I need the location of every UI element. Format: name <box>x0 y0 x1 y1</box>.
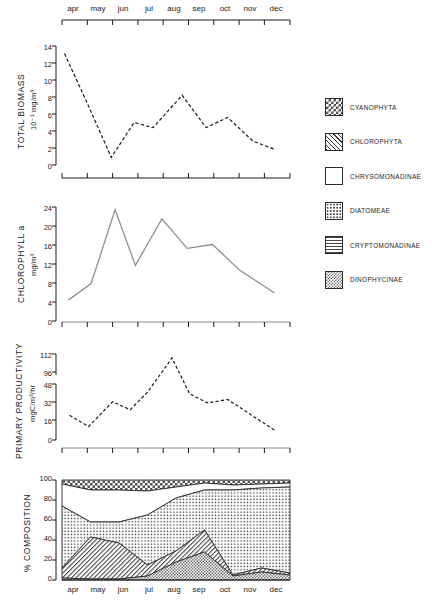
total-biomass-line <box>65 54 276 158</box>
month-label-bottom-oct: oct <box>211 585 239 594</box>
legend-item-chlorophyta: CHLOROPHYTA <box>325 133 432 151</box>
legend-label-cryptomonadinae: CRYPTOMONADINAE <box>350 242 420 249</box>
month-label-apr: apr <box>59 4 87 13</box>
month-label-bottom-sep: sep <box>185 585 213 594</box>
legend-item-dinophycinae: DINOPHYCINAE <box>325 271 432 289</box>
ytick-chl-24: 24 <box>34 204 52 213</box>
ytick-chl-16: 16 <box>34 242 52 251</box>
ytick-chl-12: 12 <box>34 261 52 270</box>
legend-swatch-cyanophyta-icon <box>325 98 343 116</box>
month-label-jul: jul <box>135 4 163 13</box>
ytick-chl-0: 0 <box>34 318 52 327</box>
ytick-pp-112: 112 <box>32 351 52 360</box>
legend-label-cyanophyta: CYANOPHYTA <box>350 104 397 111</box>
month-axis-top: apr may jun jul aug sep oct nov dec <box>0 0 300 26</box>
axis-label-chlorophyll: CHLOROPHYLL a <box>16 208 26 320</box>
ytick-0: 0 <box>34 162 52 171</box>
ytick-pc-0: 0 <box>32 574 52 583</box>
ytick-pc-40: 40 <box>32 534 52 543</box>
legend-item-cyanophyta: CYANOPHYTA <box>325 98 432 116</box>
ytick-pc-80: 80 <box>32 494 52 503</box>
panel-chlorophyll-a: CHLOROPHYLL a mg/m³ 24 20 16 12 8 4 0 <box>0 186 300 331</box>
month-label-aug: aug <box>160 4 188 13</box>
month-label-jun: jun <box>109 4 137 13</box>
ytick-pc-20: 20 <box>32 554 52 563</box>
legend-label-chlorophyta: CHLOROPHYTA <box>350 138 402 145</box>
panel-primary-productivity: PRIMARY PRODUCTIVITY mgC/m³/hr 112 96 48… <box>0 331 300 463</box>
panel-total-biomass: TOTAL BIOMASS 10⁻¹ mg/m³ 14 12 10 8 6 4 … <box>0 26 300 186</box>
ytick-6: 6 <box>34 111 52 120</box>
axis-label-total-biomass: TOTAL BIOMASS <box>16 56 26 166</box>
ytick-chl-8: 8 <box>34 280 52 289</box>
ytick-4: 4 <box>34 128 52 137</box>
month-label-bottom-apr: apr <box>59 585 87 594</box>
month-label-bottom-dec: dec <box>262 585 290 594</box>
figure-phytoplankton-timeseries: apr may jun jul aug sep oct nov dec TOTA… <box>0 0 432 605</box>
ytick-8: 8 <box>34 94 52 103</box>
month-label-may: may <box>84 4 112 13</box>
ytick-pp-32: 32 <box>32 399 52 408</box>
primary-productivity-line <box>70 358 276 431</box>
month-label-nov: nov <box>236 4 264 13</box>
ytick-10: 10 <box>34 77 52 86</box>
ytick-2: 2 <box>34 145 52 154</box>
month-label-bottom-aug: aug <box>160 585 188 594</box>
month-label-dec: dec <box>262 4 290 13</box>
ytick-chl-20: 20 <box>34 223 52 232</box>
month-label-sep: sep <box>185 4 213 13</box>
ytick-chl-4: 4 <box>34 299 52 308</box>
panel-percent-composition: % COMPOSITION 100 80 60 40 20 0 <box>0 463 300 605</box>
legend-swatch-chlorophyta-icon <box>325 133 343 151</box>
month-label-bottom-may: may <box>84 585 112 594</box>
month-label-bottom-nov: nov <box>236 585 264 594</box>
ytick-pp-96: 96 <box>32 369 52 378</box>
ytick-pc-100: 100 <box>32 474 52 483</box>
month-label-bottom-jul: jul <box>135 585 163 594</box>
legend-swatch-dinophycinae-icon <box>325 271 343 289</box>
legend-item-chrysomonadinae: CHRYSOMONADINAE <box>325 167 432 185</box>
legend-swatch-diatomeae-icon <box>325 202 343 220</box>
legend-swatch-cryptomonadinae-icon <box>325 236 343 254</box>
legend-label-dinophycinae: DINOPHYCINAE <box>350 276 403 283</box>
ytick-pp-16: 16 <box>32 417 52 426</box>
ytick-pc-60: 60 <box>32 514 52 523</box>
axis-label-percent-composition: % COMPOSITION <box>22 483 32 583</box>
ytick-14: 14 <box>34 43 52 52</box>
chlorophyll-line <box>68 210 274 300</box>
legend-swatch-chrysomonadinae-icon <box>325 167 343 185</box>
ytick-pp-48: 48 <box>32 381 52 390</box>
legend: CYANOPHYTA CHLOROPHYTA CHRYSOMONADINAE D… <box>325 98 432 305</box>
legend-label-diatomeae: DIATOMEAE <box>350 207 390 214</box>
legend-item-diatomeae: DIATOMEAE <box>325 202 432 220</box>
legend-item-cryptomonadinae: CRYPTOMONADINAE <box>325 236 432 254</box>
legend-label-chrysomonadinae: CHRYSOMONADINAE <box>350 173 421 180</box>
axis-label-primary-productivity: PRIMARY PRODUCTIVITY <box>14 347 24 459</box>
ytick-12: 12 <box>34 60 52 69</box>
month-label-bottom-jun: jun <box>109 585 137 594</box>
ytick-pp-0: 0 <box>32 436 52 445</box>
month-label-oct: oct <box>211 4 239 13</box>
